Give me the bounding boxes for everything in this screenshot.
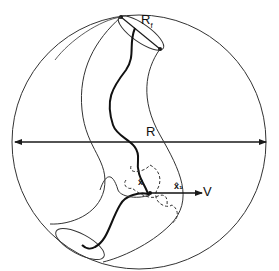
rf-label-sub: f [150, 21, 152, 30]
r-label: R [146, 124, 155, 139]
rf-label: Rf [141, 12, 153, 30]
small-label-left: x̂ [138, 177, 143, 187]
velocity-origin-dot [148, 191, 152, 195]
diagram-canvas [0, 0, 279, 271]
rf-label-main: R [141, 12, 150, 27]
small-label-right: x̂₁ [174, 181, 183, 191]
tube-right-edge [103, 49, 183, 262]
tube-left-edge [50, 17, 121, 224]
v-label: V [203, 184, 212, 199]
worldline [82, 28, 148, 248]
